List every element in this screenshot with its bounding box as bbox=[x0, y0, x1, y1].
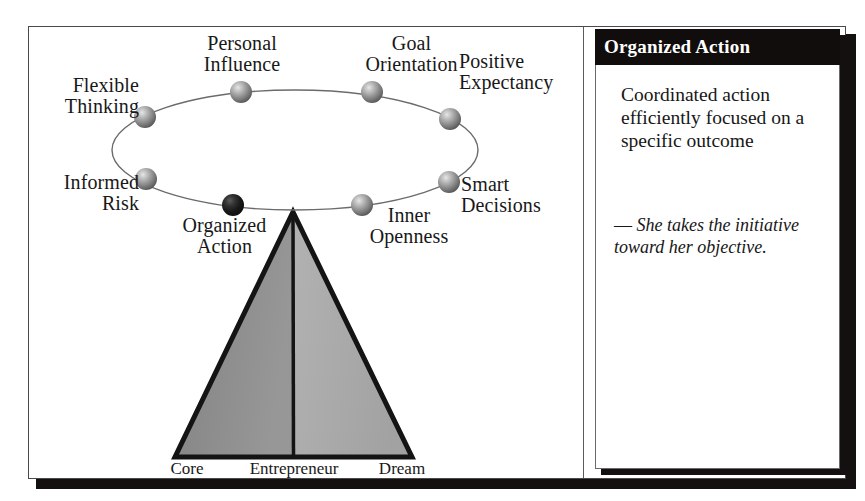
card-header-title: Organized Action bbox=[595, 36, 750, 58]
ellipse-orbit bbox=[112, 90, 478, 210]
figure-root: Flexible ThinkingPersonal InfluenceGoal … bbox=[0, 0, 865, 501]
attribute-node-positive-expectancy[interactable] bbox=[439, 108, 461, 130]
sphere-goal-orientation bbox=[361, 81, 383, 103]
card-body: Coordinated action efficiently focused o… bbox=[595, 65, 840, 469]
card-example-quote: — She takes the initiative toward her ob… bbox=[614, 215, 824, 259]
pyramid-base-label-entrepreneur: Entrepreneur bbox=[231, 459, 357, 478]
detail-card-panel: Organized Action Coordinated action effi… bbox=[584, 27, 846, 478]
attribute-label-informed-risk[interactable]: Informed Risk bbox=[29, 172, 139, 214]
attribute-node-goal-orientation[interactable] bbox=[361, 81, 383, 103]
attribute-label-smart-decisions[interactable]: Smart Decisions bbox=[461, 174, 581, 216]
sphere-personal-influence bbox=[230, 81, 252, 103]
attribute-label-personal-influence[interactable]: Personal Influence bbox=[157, 33, 327, 75]
attribute-node-personal-influence[interactable] bbox=[230, 81, 252, 103]
card-definition-text: Coordinated action efficiently focused o… bbox=[621, 83, 821, 152]
attribute-label-positive-expectancy[interactable]: Positive Expectancy bbox=[459, 51, 583, 93]
diagram-panel: Flexible ThinkingPersonal InfluenceGoal … bbox=[29, 27, 583, 478]
quote-text: She takes the initiative toward her obje… bbox=[614, 215, 799, 257]
sphere-smart-decisions bbox=[438, 171, 460, 193]
card-header: Organized Action bbox=[595, 29, 840, 65]
sphere-positive-expectancy bbox=[439, 108, 461, 130]
attribute-node-organized-action[interactable] bbox=[222, 194, 244, 216]
attribute-label-inner-openness[interactable]: Inner Openness bbox=[339, 205, 479, 247]
attribute-label-flexible-thinking[interactable]: Flexible Thinking bbox=[31, 75, 139, 117]
pyramid-base-label-dream: Dream bbox=[359, 459, 445, 478]
attribute-label-organized-action[interactable]: Organized Action bbox=[147, 215, 302, 257]
orbit-ellipse bbox=[112, 90, 478, 210]
sphere-organized-action bbox=[222, 194, 244, 216]
quote-em-dash: — bbox=[614, 215, 632, 235]
attribute-node-smart-decisions[interactable] bbox=[438, 171, 460, 193]
pyramid-base-label-core: Core bbox=[147, 459, 227, 478]
